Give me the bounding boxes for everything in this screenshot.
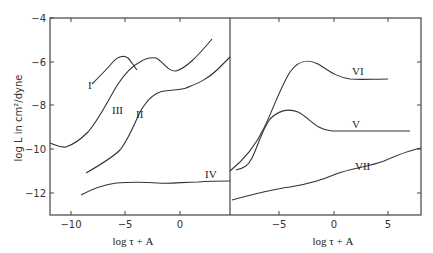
chart: −4 −6 −8 −10 −12 −10 −5 0 −5 0 5 log τ +… (0, 0, 433, 253)
y-tick-labels: −4 −6 −8 −10 −12 (25, 13, 46, 199)
svg-text:I: I (88, 79, 92, 91)
svg-text:−10: −10 (60, 219, 81, 230)
svg-text:VI: VI (352, 65, 364, 77)
y-axis-label: log L in cm²/dyne (13, 75, 24, 162)
svg-text:−12: −12 (25, 188, 46, 199)
svg-text:V: V (352, 118, 360, 130)
curve-I (92, 56, 137, 84)
curve-IV (81, 181, 230, 195)
svg-text:−5: −5 (272, 219, 287, 230)
svg-text:−10: −10 (25, 144, 46, 155)
svg-text:−8: −8 (31, 100, 46, 111)
svg-text:−4: −4 (31, 13, 46, 24)
curve-II (86, 57, 230, 173)
svg-text:0: 0 (331, 219, 337, 230)
svg-text:−6: −6 (31, 57, 46, 68)
x-axis-label-right: log τ + A (313, 235, 354, 247)
svg-text:III: III (112, 104, 123, 116)
x-ticks-right: −5 0 5 (272, 18, 392, 230)
curve-VII (232, 148, 421, 200)
x-axis-label-left: log τ + A (113, 235, 154, 247)
svg-text:−5: −5 (118, 219, 133, 230)
svg-text:IV: IV (205, 168, 217, 180)
curve-labels: I II III IV V VI VII (88, 65, 371, 180)
x-ticks-left: −10 −5 0 (60, 18, 183, 230)
svg-text:5: 5 (385, 219, 391, 230)
svg-text:II: II (136, 108, 144, 120)
svg-text:VII: VII (355, 160, 371, 172)
svg-text:0: 0 (177, 219, 183, 230)
